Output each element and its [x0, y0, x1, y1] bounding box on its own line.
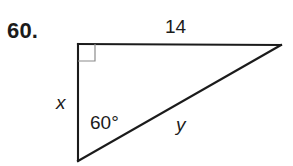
- worksheet-figure-page: 60. 14 x 60° y: [0, 0, 293, 166]
- triangle-top-side: [78, 44, 281, 45]
- side-length-label-top: 14: [165, 17, 186, 36]
- triangle-hypotenuse: [78, 45, 281, 161]
- triangle-figure: [0, 0, 293, 166]
- side-length-label-left: x: [56, 93, 66, 112]
- angle-measure-label: 60°: [90, 113, 119, 132]
- side-length-label-hypotenuse: y: [176, 115, 186, 134]
- right-angle-marker-icon: [78, 44, 95, 61]
